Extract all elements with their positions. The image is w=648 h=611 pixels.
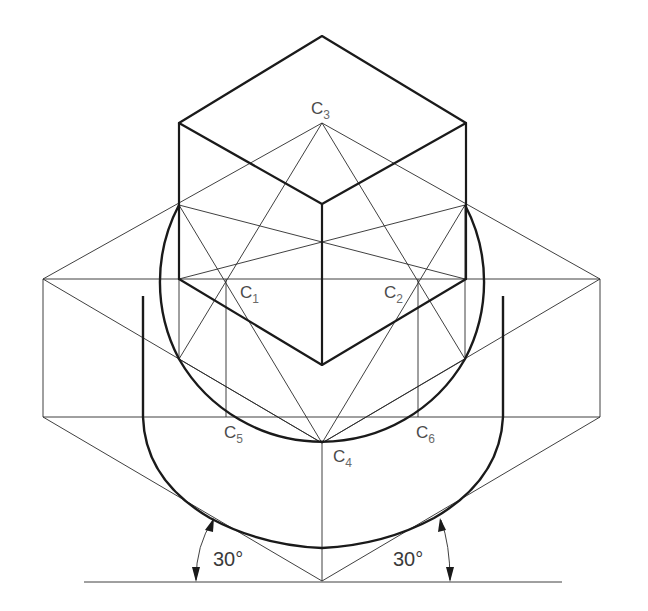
right-arrow-down-icon — [446, 567, 454, 582]
label-c4: C4 — [333, 447, 352, 470]
isometric-construction-diagram: C3 C1 C2 C5 C6 C4 30° 30° — [0, 0, 648, 611]
left-arrow-down-icon — [192, 567, 200, 582]
angle-label-left: 30° — [213, 548, 243, 570]
label-c6: C6 — [416, 423, 435, 446]
right-arrow-up-icon — [438, 518, 446, 532]
angle-label-right: 30° — [393, 548, 423, 570]
label-c2: C2 — [384, 283, 403, 306]
label-c3: C3 — [311, 99, 330, 122]
left-arrow-up-icon — [205, 518, 214, 532]
cube — [179, 36, 466, 365]
bottom-ellipse — [143, 417, 503, 548]
label-c5: C5 — [224, 423, 243, 446]
labels: C3 C1 C2 C5 C6 C4 30° 30° — [213, 99, 435, 570]
label-c1: C1 — [240, 283, 259, 306]
